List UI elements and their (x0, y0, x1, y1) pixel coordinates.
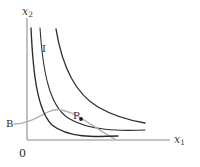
x-axis-label: x1 (174, 134, 185, 145)
origin-label: 0 (19, 148, 26, 159)
budget-curve-label: B (6, 119, 13, 129)
indifference-curve-label: I (42, 44, 46, 54)
indifference-curve-inner (56, 29, 145, 123)
indifference-curve-middle (14, 110, 115, 139)
plot-canvas (0, 0, 200, 167)
y-axis-label-subscript: 2 (28, 10, 33, 19)
y-axis-label: x2 (22, 6, 33, 17)
budget-curve (40, 28, 145, 130)
budget-curve-group (40, 28, 145, 130)
x-axis-label-subscript: 1 (180, 138, 185, 147)
optimum-point-label: P (73, 111, 80, 121)
indifference-curves-group (14, 28, 145, 139)
indifference-curve-figure: x2 x1 0 I B P (0, 0, 200, 167)
